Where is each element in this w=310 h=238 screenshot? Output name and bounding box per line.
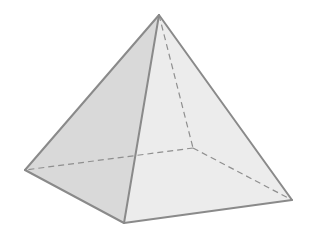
pyramid-diagram xyxy=(0,0,310,238)
pyramid-figure xyxy=(0,0,310,238)
